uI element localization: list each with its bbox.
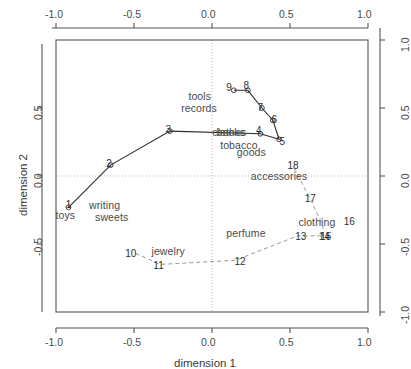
point-label-4: 4 <box>256 126 262 136</box>
tick-label-left-0: 0.5 <box>33 105 44 120</box>
tick-label-left-1: 0.0 <box>33 173 44 188</box>
point-label-9: 9 <box>226 83 232 93</box>
tick-label-top-2: 0.0 <box>201 9 216 20</box>
tick-label-bottom-0: -1.0 <box>45 337 63 348</box>
tick-label-bottom-1: -0.5 <box>123 337 141 348</box>
tick-label-right-0: 1.0 <box>400 37 411 52</box>
point-label-16: 16 <box>344 217 355 227</box>
point-label-5: 5 <box>279 137 285 147</box>
tick-label-top-1: -0.5 <box>123 9 141 20</box>
point-label-10: 10 <box>125 249 136 259</box>
tick-label-right-2: 0.0 <box>400 173 411 188</box>
annotation-records: records <box>181 103 217 114</box>
y-axis-title: dimension 2 <box>18 154 30 216</box>
tick-label-top-0: -1.0 <box>45 9 63 20</box>
annotation-sweets: sweets <box>95 212 128 223</box>
tick-label-right-1: 0.5 <box>400 105 411 120</box>
tick-label-right-4: -1.0 <box>400 306 411 324</box>
point-label-7: 7 <box>258 103 264 113</box>
x-axis-title: dimension 1 <box>174 358 236 369</box>
point-label-8: 8 <box>244 81 250 91</box>
annotation-accessories: accessories <box>251 171 308 182</box>
annotation-goods: goods <box>237 147 266 158</box>
tick-label-left-2: -0.5 <box>33 238 44 256</box>
annotation-clothes: clothes <box>212 127 246 138</box>
point-label-6: 6 <box>272 115 278 125</box>
annotation-toys: toys <box>56 210 76 221</box>
tick-label-right-3: -0.5 <box>400 238 411 256</box>
tick-label-top-4: 1.0 <box>357 9 372 20</box>
tick-label-bottom-4: 1.0 <box>357 337 372 348</box>
point-label-12: 12 <box>234 257 245 267</box>
point-label-2: 2 <box>106 159 112 169</box>
point-label-17: 17 <box>305 194 316 204</box>
point-label-11: 11 <box>153 261 163 271</box>
annotation-tools: tools <box>188 91 211 102</box>
tick-label-bottom-2: 0.0 <box>201 337 216 348</box>
annotation-writing: writing <box>89 200 120 211</box>
annotation-jewelry: jewelry <box>151 246 184 257</box>
annotation-clothing: clothing <box>298 217 335 228</box>
point-label-1: 1 <box>66 200 72 210</box>
annotation-perfume: perfume <box>226 228 265 239</box>
point-label-3: 3 <box>166 125 172 135</box>
tick-label-bottom-3: 0.5 <box>279 337 294 348</box>
point-label-13: 13 <box>295 232 306 242</box>
point-label-15: 15 <box>320 232 331 242</box>
tick-label-top-3: 0.5 <box>279 9 294 20</box>
